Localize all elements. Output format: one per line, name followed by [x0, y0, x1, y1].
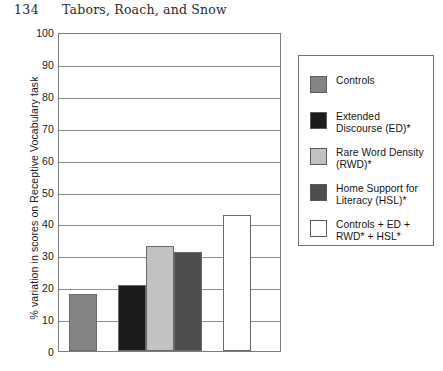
running-head-authors: Tabors, Roach, and Snow: [62, 2, 227, 17]
y-tick-label: 80: [18, 91, 54, 103]
chart-legend: ControlsExtended Discourse (ED)*Rare Wor…: [298, 55, 434, 246]
y-tick-label: 50: [18, 187, 54, 199]
legend-item: Home Support for Literacy (HSL)*: [310, 183, 418, 208]
bar: [174, 252, 202, 351]
legend-swatch: [310, 220, 327, 237]
bar-chart-figure: % variation in scores on Receptive Vocab…: [0, 22, 443, 371]
running-head: 134 Tabors, Roach, and Snow: [0, 0, 443, 22]
legend-swatch: [310, 76, 327, 93]
page-number: 134: [14, 2, 39, 17]
legend-swatch: [310, 112, 327, 129]
plot-area: [58, 33, 281, 352]
bar: [223, 215, 251, 351]
y-tick-label: 30: [18, 250, 54, 262]
legend-item-label: Controls: [336, 75, 375, 87]
y-tick-label: 0: [18, 346, 54, 358]
legend-item: Controls: [310, 75, 375, 93]
bar-series: [59, 34, 280, 351]
legend-item-label: Rare Word Density (RWD)*: [336, 147, 424, 172]
legend-item: Rare Word Density (RWD)*: [310, 147, 424, 172]
legend-swatch: [310, 184, 327, 201]
bar: [146, 246, 174, 351]
y-tick-label: 40: [18, 218, 54, 230]
y-tick-label: 60: [18, 155, 54, 167]
legend-swatch: [310, 148, 327, 165]
figure-page: 134 Tabors, Roach, and Snow % variation …: [0, 0, 443, 371]
legend-item-label: Extended Discourse (ED)*: [336, 111, 411, 136]
legend-item: Controls + ED + RWD* + HSL*: [310, 219, 410, 244]
y-axis-tick-labels: 0102030405060708090100: [18, 22, 54, 371]
legend-item-label: Controls + ED + RWD* + HSL*: [336, 219, 410, 244]
y-tick-label: 10: [18, 314, 54, 326]
bar: [118, 285, 146, 351]
y-tick-label: 90: [18, 59, 54, 71]
y-tick-label: 20: [18, 282, 54, 294]
legend-item-label: Home Support for Literacy (HSL)*: [336, 183, 418, 208]
y-tick-label: 70: [18, 123, 54, 135]
legend-item: Extended Discourse (ED)*: [310, 111, 411, 136]
y-tick-label: 100: [18, 27, 54, 39]
bar: [69, 294, 97, 351]
